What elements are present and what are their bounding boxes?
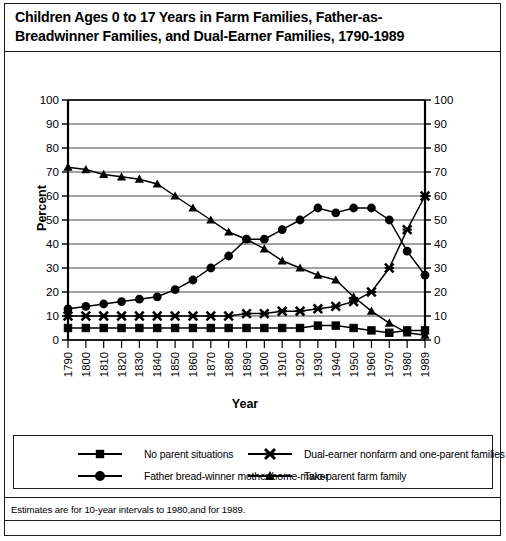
y-tick-label-right: 100 — [434, 93, 453, 106]
data-point-circle — [224, 252, 233, 261]
x-tick-label: 1890 — [241, 352, 253, 377]
data-point-x — [153, 312, 162, 321]
data-point-triangle — [260, 244, 269, 252]
data-point-triangle — [385, 319, 394, 327]
y-tick-label-right: 20 — [434, 285, 447, 298]
data-point-circle — [153, 292, 162, 301]
data-point-circle — [421, 271, 430, 280]
x-tick-label: 1790 — [62, 352, 74, 377]
data-point-x — [224, 312, 233, 321]
data-point-square — [350, 324, 357, 331]
data-point-triangle — [188, 203, 197, 211]
data-point-x — [385, 264, 394, 273]
data-point-square — [100, 324, 107, 331]
y-tick-label-left: 0 — [53, 333, 59, 346]
data-point-x — [278, 307, 287, 316]
page-title-line-2: Breadwinner Families, and Dual-Earner Fa… — [15, 27, 490, 46]
data-point-circle — [189, 276, 198, 285]
data-point-circle — [171, 285, 180, 294]
data-point-square — [279, 324, 286, 331]
data-point-x — [260, 309, 269, 318]
x-tick-label: 1870 — [205, 352, 217, 377]
y-tick-label-left: 10 — [46, 309, 59, 322]
y-tick-label-left: 100 — [40, 93, 59, 106]
legend-marker-x — [265, 449, 276, 459]
line-chart-plot: 0010102020303040405050606070708080909010… — [5, 53, 500, 398]
data-point-circle — [403, 247, 412, 256]
chart-legend: No parent situations Dual-earner nonfarm… — [13, 435, 493, 489]
page-title-line-1: Children Ages 0 to 17 Years in Farm Fami… — [15, 8, 490, 27]
data-point-square — [64, 324, 71, 331]
data-point-circle — [117, 297, 126, 306]
data-point-x — [99, 312, 108, 321]
data-point-square — [154, 324, 161, 331]
data-point-square — [243, 324, 250, 331]
x-tick-label: 1820 — [116, 352, 128, 377]
x-tick-label: 1910 — [276, 352, 288, 377]
legend-item-no-parent-situations: No parent situations — [144, 449, 233, 460]
data-point-x — [81, 312, 90, 321]
data-point-square — [118, 324, 125, 331]
x-tick-label: 1940 — [330, 352, 342, 377]
legend-item-father-breadwinner: Father bread-winner mother home-maker — [144, 471, 328, 482]
data-point-triangle — [63, 163, 72, 171]
data-point-circle — [314, 204, 323, 213]
y-tick-label-left: 30 — [46, 261, 59, 274]
data-point-x — [242, 309, 251, 318]
x-tick-label: 1810 — [98, 352, 110, 377]
data-point-square — [403, 327, 410, 334]
data-point-square — [296, 324, 303, 331]
chart-title: Children Ages 0 to 17 Years in Farm Fami… — [5, 4, 500, 52]
data-point-x — [367, 288, 376, 297]
y-tick-label-left: 60 — [46, 189, 59, 202]
data-point-triangle — [224, 227, 233, 235]
data-point-x — [331, 302, 340, 311]
x-tick-label: 1920 — [294, 352, 306, 377]
data-point-square — [332, 322, 339, 329]
x-tick-label: 1800 — [80, 352, 92, 377]
x-tick-label: 1860 — [187, 352, 199, 377]
y-tick-label-left: 50 — [46, 213, 59, 226]
data-point-circle — [367, 204, 376, 213]
data-point-square — [207, 324, 214, 331]
data-point-x — [117, 312, 126, 321]
data-point-square — [136, 324, 143, 331]
x-tick-label: 1989 — [419, 352, 431, 377]
footnote-container: Estimates are for 10-year intervals to 1… — [5, 497, 500, 521]
data-point-circle — [296, 216, 305, 225]
y-tick-label-right: 90 — [434, 117, 447, 130]
data-point-circle — [135, 295, 144, 304]
data-point-circle — [206, 264, 215, 273]
y-tick-label-left: 90 — [46, 117, 59, 130]
data-point-square — [386, 329, 393, 336]
y-tick-label-right: 30 — [434, 261, 447, 274]
x-tick-label: 1930 — [312, 352, 324, 377]
data-point-circle — [331, 208, 340, 217]
data-point-square — [82, 324, 89, 331]
x-tick-label: 1960 — [365, 352, 377, 377]
y-tick-label-right: 80 — [434, 141, 447, 154]
data-point-x — [171, 312, 180, 321]
data-point-square — [171, 324, 178, 331]
data-point-square — [421, 327, 428, 334]
footnote-text: Estimates are for 10-year intervals to 1… — [11, 504, 245, 515]
y-tick-label-right: 40 — [434, 237, 447, 250]
data-point-square — [189, 324, 196, 331]
x-tick-label: 1880 — [223, 352, 235, 377]
y-tick-label-right: 50 — [434, 213, 447, 226]
data-point-x — [295, 307, 304, 316]
data-point-x — [403, 225, 412, 234]
data-point-square — [314, 322, 321, 329]
x-tick-label: 1970 — [383, 352, 395, 377]
y-tick-label-right: 0 — [434, 333, 440, 346]
data-point-circle — [242, 235, 251, 244]
data-point-triangle — [278, 256, 287, 264]
chart-page: Children Ages 0 to 17 Years in Farm Fami… — [0, 0, 506, 541]
y-tick-label-right: 10 — [434, 309, 447, 322]
data-point-circle — [81, 302, 90, 311]
x-tick-label: 1840 — [151, 352, 163, 377]
x-tick-label: 1830 — [133, 352, 145, 377]
y-tick-label-left: 80 — [46, 141, 59, 154]
data-point-x — [188, 312, 197, 321]
data-point-circle — [278, 225, 287, 234]
